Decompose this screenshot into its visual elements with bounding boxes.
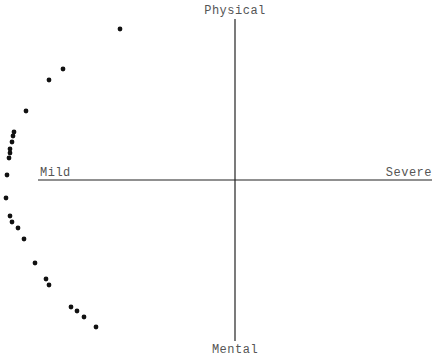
data-point <box>8 214 13 219</box>
data-point <box>118 27 123 32</box>
data-point <box>24 109 29 114</box>
label-mental: Mental <box>212 343 258 356</box>
data-point <box>4 196 9 201</box>
data-point <box>5 173 10 178</box>
data-point <box>61 67 66 72</box>
data-point <box>75 309 80 314</box>
data-point <box>22 237 27 242</box>
data-point <box>47 78 52 83</box>
label-severe: Severe <box>386 166 432 180</box>
label-physical: Physical <box>204 4 266 18</box>
data-point <box>44 277 49 282</box>
data-point <box>82 315 87 320</box>
data-point <box>47 283 52 288</box>
data-point <box>10 140 15 145</box>
data-point <box>16 226 21 231</box>
quadrant-scatter-chart: Physical Mental Mild Severe <box>0 0 440 356</box>
data-point <box>11 134 16 139</box>
data-point <box>10 220 15 225</box>
data-point <box>94 325 99 330</box>
data-point <box>33 261 38 266</box>
data-point <box>12 130 17 135</box>
data-point <box>8 151 13 156</box>
data-point <box>69 305 74 310</box>
data-point <box>7 156 12 161</box>
label-mild: Mild <box>40 166 71 180</box>
